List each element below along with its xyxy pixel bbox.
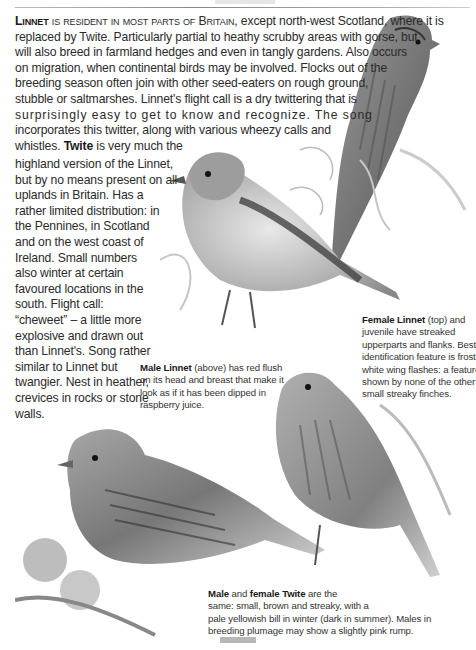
column-line: Ireland. Small numbers bbox=[15, 251, 180, 267]
caption-text: (above) has red flush bbox=[192, 362, 283, 373]
lead-smallcaps: is resident in most parts of Britain bbox=[49, 14, 235, 28]
intro-line-twite: whistles. Twite is very much the bbox=[15, 139, 415, 155]
caption-title-male: Male bbox=[208, 588, 229, 599]
caption-line: upperparts and flanks. Best bbox=[362, 339, 474, 351]
caption-male-linnet: Male Linnet (above) has red flush on its… bbox=[140, 362, 290, 412]
caption-line: raspberry juice. bbox=[140, 399, 290, 411]
column-line: the Pennines, in Scotland bbox=[15, 219, 180, 235]
caption-line: juvenile have streaked bbox=[362, 326, 474, 338]
column-line: highland version of the Linnet, bbox=[15, 157, 180, 173]
intro-paragraph: Linnet is resident in most parts of Brit… bbox=[15, 14, 415, 154]
caption-title: Male Linnet bbox=[140, 362, 192, 373]
column-line: explosive and drawn out bbox=[15, 329, 180, 345]
column-line: but by no means present on all bbox=[15, 173, 180, 189]
column-line: also winter at certain bbox=[15, 266, 180, 282]
caption-female-linnet: Female Linnet (top) and juvenile have st… bbox=[362, 314, 474, 401]
intro-line: replaced by Twite. Particularly partial … bbox=[15, 30, 415, 46]
caption-text: are the bbox=[305, 588, 337, 599]
column-line: “cheweet” – a little more bbox=[15, 313, 180, 329]
column-line: than Linnet's. Song rather bbox=[15, 344, 180, 360]
caption-line: Male and female Twite are the bbox=[208, 588, 428, 600]
intro-line: surprisingly easy to get to know and rec… bbox=[15, 108, 415, 124]
page-tab-marker bbox=[220, 637, 256, 643]
caption-line: breeding plumage may show a slightly pin… bbox=[208, 625, 428, 637]
caption-title-female: female Twite bbox=[250, 588, 306, 599]
caption-line: same: small, brown and streaky, with a bbox=[208, 600, 428, 612]
species-name-twite: Twite bbox=[64, 139, 94, 153]
intro-text: is very much the bbox=[93, 139, 183, 153]
caption-twite: Male and female Twite are the same: smal… bbox=[208, 588, 428, 638]
column-line: favoured locations in the bbox=[15, 282, 180, 298]
species-name-linnet: Linnet bbox=[15, 14, 49, 28]
caption-line: pale yellowish bill in winter (dark in s… bbox=[208, 613, 428, 625]
intro-line: stubble or saltmarshes. Linnet's flight … bbox=[15, 92, 415, 108]
running-header bbox=[215, 0, 275, 4]
column-line: uplands in Britain. Has a bbox=[15, 188, 180, 204]
intro-line: on migration, when continental birds may… bbox=[15, 61, 415, 77]
caption-line: small streaky finches. bbox=[362, 388, 474, 400]
intro-text: , except north-west Scotland, where it i… bbox=[234, 14, 443, 28]
caption-text: and bbox=[229, 588, 250, 599]
column-line: and on the west coast of bbox=[15, 235, 180, 251]
column-line: south. Flight call: bbox=[15, 297, 180, 313]
intro-line: incorporates this twitter, along with va… bbox=[15, 123, 415, 139]
caption-text: (top) and bbox=[425, 314, 465, 325]
caption-line: Female Linnet (top) and bbox=[362, 314, 474, 326]
intro-line-1: Linnet is resident in most parts of Brit… bbox=[15, 14, 415, 30]
intro-line: will also breed in farmland hedges and e… bbox=[15, 45, 415, 61]
column-line: rather limited distribution: in bbox=[15, 204, 180, 220]
caption-line: identification feature is frosty bbox=[362, 351, 474, 363]
caption-line: shown by none of the other bbox=[362, 376, 474, 388]
lead-in: Linnet is resident in most parts of Brit… bbox=[15, 14, 234, 28]
caption-line: on its head and breast that make it bbox=[140, 374, 290, 386]
caption-line: Male Linnet (above) has red flush bbox=[140, 362, 290, 374]
caption-title: Female Linnet bbox=[362, 314, 425, 325]
caption-line: look as if it has been dipped in bbox=[140, 387, 290, 399]
caption-line: white wing flashes: a feature bbox=[362, 364, 474, 376]
intro-text: whistles. bbox=[15, 139, 64, 153]
header-rule bbox=[15, 7, 470, 8]
intro-line: breeding season often join with other se… bbox=[15, 76, 415, 92]
